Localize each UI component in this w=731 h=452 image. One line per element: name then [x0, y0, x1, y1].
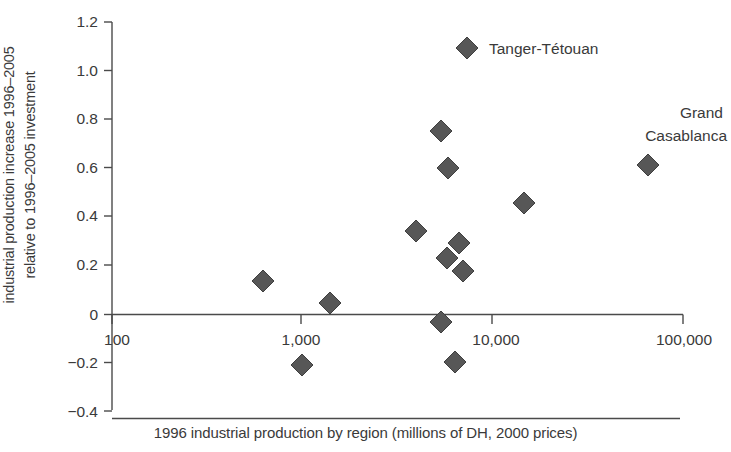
data-point-marker	[452, 260, 474, 282]
y-tick-label: 0.8	[76, 110, 98, 127]
plot-area: 1.2 1.0 0.8 0.6 0.4 0.2 0 −0.2 −0.4 100 …	[0, 0, 731, 452]
y-tick-marks	[104, 22, 112, 411]
data-point-marker	[319, 292, 341, 314]
data-point-marker-tanger-tetouan	[456, 37, 478, 59]
y-tick-label: 0	[89, 306, 98, 323]
x-tick-marks	[112, 315, 683, 325]
annotation-grand-casablanca-line-1: Grand	[680, 104, 723, 121]
x-tick-label: 100	[104, 331, 130, 348]
x-axis-caption: 1996 industrial production by region (mi…	[0, 424, 731, 441]
data-point-marker	[513, 192, 535, 214]
x-tick-label: 100,000	[656, 331, 712, 348]
data-point-marker	[252, 270, 274, 292]
data-markers	[252, 37, 659, 376]
data-point-marker	[444, 351, 466, 373]
data-point-marker	[430, 120, 452, 142]
y-tick-label: −0.4	[67, 403, 98, 420]
y-tick-labels: 1.2 1.0 0.8 0.6 0.4 0.2 0 −0.2 −0.4	[67, 13, 98, 420]
data-point-marker	[405, 220, 427, 242]
scatter-chart-figure: industrial production increase 1996–2005…	[0, 0, 731, 452]
x-tick-label: 1,000	[282, 331, 321, 348]
y-tick-label: 0.6	[76, 159, 98, 176]
annotation-grand-casablanca-line-2: Casablanca	[645, 127, 727, 144]
annotation-tanger-tetouan: Tanger-Tétouan	[489, 40, 598, 57]
x-tick-label: 10,000	[472, 331, 520, 348]
data-point-marker	[437, 157, 459, 179]
y-tick-label: 1.2	[76, 13, 98, 30]
y-tick-label: 1.0	[76, 62, 98, 79]
data-point-marker-grand-casablanca	[637, 154, 659, 176]
data-point-marker	[291, 354, 313, 376]
y-tick-label: 0.4	[76, 207, 98, 224]
y-tick-label: 0.2	[76, 256, 98, 273]
x-tick-labels: 100 1,000 10,000 100,000	[104, 331, 712, 348]
y-tick-label: −0.2	[67, 354, 98, 371]
